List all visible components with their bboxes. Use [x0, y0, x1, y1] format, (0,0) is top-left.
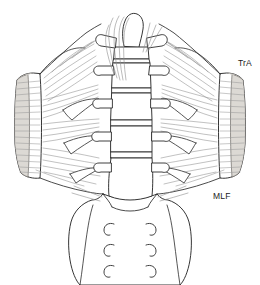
- disc-1: [113, 59, 150, 63]
- transverse-process-left-4: [92, 132, 111, 141]
- transverse-process-right-3: [151, 99, 170, 108]
- label-tra: TrA: [238, 58, 252, 68]
- transverse-process-left-5: [94, 163, 111, 172]
- vertebra-2: [112, 63, 151, 88]
- disc-4: [111, 152, 152, 158]
- diagram-canvas: TrA MLF: [0, 0, 260, 285]
- disc-2: [112, 88, 151, 93]
- transverse-process-right-4: [152, 132, 171, 141]
- transverse-process-left-3: [93, 99, 112, 108]
- label-mlf: MLF: [213, 191, 231, 201]
- transverse-process-right-5: [152, 163, 169, 172]
- anatomical-diagram: TrA MLF: [0, 0, 260, 285]
- spinous-process-top: [123, 13, 144, 47]
- vertebra-3: [111, 93, 152, 120]
- transverse-process-left-2: [94, 66, 114, 75]
- vertebra-4: [111, 126, 152, 152]
- sacrum-body: [69, 194, 192, 285]
- vertebra-5: [109, 158, 153, 200]
- transverse-process-right-2: [149, 66, 169, 75]
- disc-3: [111, 120, 152, 126]
- sacrum: [69, 194, 192, 285]
